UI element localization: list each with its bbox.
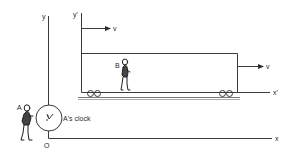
x-prime-axis-label: x' (273, 89, 278, 96)
observer-b-figure-icon (121, 59, 130, 90)
velocity-label-top: v (113, 25, 117, 32)
relativity-diagram: y x O y' v v x' B A's clo (0, 0, 285, 158)
y-prime-axis-label: y' (73, 11, 78, 19)
y-axis-label: y (42, 13, 46, 21)
wheel-icon (220, 91, 226, 97)
wheel-icon (95, 91, 101, 97)
wheel-icon (88, 91, 94, 97)
wheel-icon (227, 91, 233, 97)
velocity-label-right: v (266, 63, 270, 70)
clock-label: A's clock (63, 115, 91, 122)
x-axis-label: x (275, 135, 279, 142)
clock-hands-icon (46, 114, 53, 121)
origin-label: O (44, 142, 50, 149)
observer-a-figure-icon (21, 105, 33, 140)
observer-a-label: A (17, 104, 22, 111)
observer-b-label: B (115, 62, 120, 69)
wheels-left (88, 91, 101, 97)
wheels-right (220, 91, 233, 97)
